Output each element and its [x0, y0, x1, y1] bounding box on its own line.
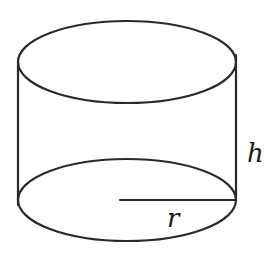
top-face-ellipse: [18, 21, 236, 103]
radius-label: r: [167, 203, 181, 233]
height-label: h: [247, 138, 264, 168]
cylinder-diagram: h r: [0, 0, 272, 256]
